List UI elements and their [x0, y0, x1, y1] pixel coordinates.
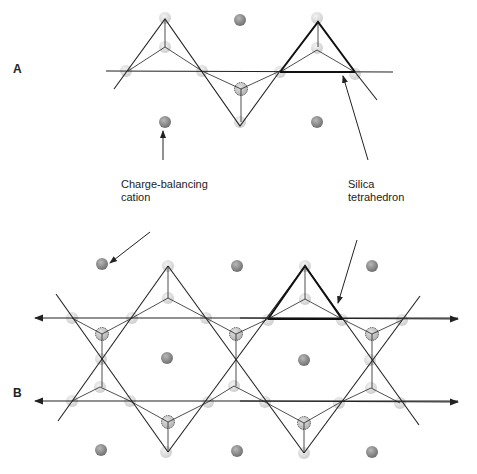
- cation-label-line2: cation: [121, 191, 208, 204]
- cation-atom: [311, 116, 323, 128]
- tetrahedron-label-line1: Silica: [348, 178, 404, 191]
- cation-atom: [159, 116, 171, 128]
- tetrahedron-label-line2: tetrahedron: [348, 191, 404, 204]
- panel-a-label: A: [13, 62, 22, 76]
- panel-a-chain: [106, 12, 393, 128]
- tetrahedron-annotation: Silica tetrahedron: [348, 178, 404, 204]
- cation-annotation: Charge-balancing cation: [121, 178, 208, 204]
- cation-atom: [234, 14, 246, 26]
- cation-label-line1: Charge-balancing: [121, 178, 208, 191]
- silicate-structure-diagram: [0, 0, 477, 474]
- panel-b-double-chain: [35, 258, 458, 459]
- panel-b-label: B: [13, 386, 22, 400]
